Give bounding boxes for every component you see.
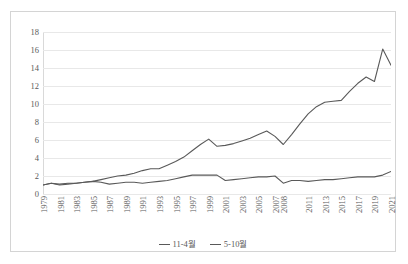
plot-area: 024681012141618 (43, 32, 391, 194)
y-tick-10: 10 (31, 100, 40, 109)
x-tick-1979: 1979 (40, 196, 49, 213)
x-tick-1987: 1987 (106, 196, 115, 213)
x-tick-2001: 2001 (222, 196, 231, 213)
y-tick-2: 2 (35, 172, 39, 181)
x-tick-2015: 2015 (338, 196, 347, 213)
legend-label-summer: 5-10월 (224, 240, 248, 249)
plot-inner: 024681012141618 (43, 32, 391, 194)
legend-line-swatch-summer (210, 244, 221, 245)
x-tick-1989: 1989 (123, 196, 132, 213)
y-tick-14: 14 (31, 64, 40, 73)
y-tick-4: 4 (35, 154, 39, 163)
chart-legend: 11-4월 5-10월 (11, 240, 395, 249)
series-line-2 (43, 172, 391, 186)
legend-item-winter[interactable]: 11-4월 (159, 240, 196, 249)
x-tick-1981: 1981 (57, 196, 66, 213)
x-tick-2003: 2003 (239, 196, 248, 213)
legend-label-winter: 11-4월 (173, 240, 196, 249)
x-tick-2005: 2005 (255, 196, 264, 213)
series-lines (43, 32, 391, 194)
y-tick-8: 8 (35, 118, 39, 127)
x-tick-1993: 1993 (156, 196, 165, 213)
chart-screenshot: 024681012141618 197919811983198519871989… (0, 0, 408, 264)
x-tick-1995: 1995 (173, 196, 182, 213)
legend-line-swatch-winter (159, 244, 170, 245)
x-axis-tick-labels: 1979198119831985198719891991199319951997… (43, 196, 391, 238)
y-tick-16: 16 (31, 46, 40, 55)
y-tick-18: 18 (31, 28, 40, 37)
x-tick-2019: 2019 (371, 196, 380, 213)
y-tick-6: 6 (35, 136, 39, 145)
x-tick-2008: 2008 (280, 196, 289, 213)
chart-frame: 024681012141618 197919811983198519871989… (10, 11, 396, 252)
x-tick-1999: 1999 (206, 196, 215, 213)
x-tick-2011: 2011 (305, 196, 314, 213)
x-tick-1985: 1985 (90, 196, 99, 213)
legend-item-summer[interactable]: 5-10월 (210, 240, 248, 249)
x-tick-1991: 1991 (139, 196, 148, 213)
y-tick-12: 12 (31, 82, 40, 91)
gridline-0 (43, 194, 391, 195)
x-tick-2017: 2017 (355, 196, 364, 213)
x-tick-1983: 1983 (73, 196, 82, 213)
x-tick-2021: 2021 (388, 196, 397, 213)
x-tick-1997: 1997 (189, 196, 198, 213)
x-tick-2013: 2013 (322, 196, 331, 213)
chart-title-clipped (150, 0, 400, 9)
series-line-1 (43, 49, 391, 185)
